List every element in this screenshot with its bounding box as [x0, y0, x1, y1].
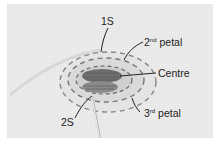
- label-2nd-petal-sup: nd: [150, 37, 157, 43]
- label-3rd-petal: 3rd petal: [144, 108, 181, 119]
- leader-1s: [101, 28, 108, 52]
- label-3rd-petal-word: petal: [158, 107, 181, 119]
- label-1s: 1S: [101, 16, 114, 27]
- label-2nd-petal: 2nd petal: [144, 37, 182, 48]
- label-2s: 2S: [61, 117, 74, 128]
- centre-stitch-top: [82, 69, 122, 83]
- centre-stitch-bottom: [82, 81, 118, 93]
- label-centre: Centre: [158, 68, 190, 79]
- label-2nd-petal-word: petal: [159, 36, 182, 48]
- label-3rd-petal-sup: rd: [150, 108, 155, 114]
